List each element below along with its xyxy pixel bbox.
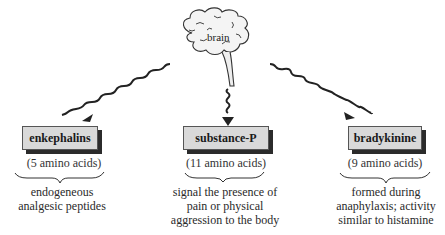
brace-bradykinine — [340, 172, 430, 183]
node-enkephalins: enkephalins — [22, 126, 98, 150]
description-line: signal the presence of — [160, 185, 290, 199]
amino-acid-count-substance-p: (11 amino acids) — [170, 156, 282, 171]
arrowheads — [82, 112, 355, 126]
arrow-to-substance-p — [227, 89, 230, 113]
braces — [15, 172, 430, 183]
arrow-to-bradykinine — [270, 64, 372, 113]
node-bradykinine: bradykinine — [348, 126, 422, 150]
arrowhead-substance-p-icon — [222, 117, 234, 126]
brace-enkephalins — [15, 172, 104, 183]
brain-label: brain — [207, 31, 230, 43]
description-line: aggression to the body — [160, 213, 290, 227]
description-line: anaphylaxis; activity — [328, 199, 444, 213]
description-line: endogeneous — [2, 185, 122, 199]
description-substance-p: signal the presence of pain or physical … — [160, 185, 290, 227]
amino-acid-count-enkephalins: (5 amino acids) — [10, 156, 118, 171]
brace-substance-p — [185, 172, 264, 182]
amino-acid-count-bradykinine: (9 amino acids) — [330, 156, 440, 171]
description-line: similar to histamine — [328, 213, 444, 227]
arrowhead-bradykinine-icon — [344, 112, 355, 120]
description-line: pain or physical — [160, 199, 290, 213]
description-line: analgesic peptides — [2, 199, 122, 213]
description-line: formed during — [328, 185, 444, 199]
arrowhead-enkephalins-icon — [82, 114, 93, 122]
description-enkephalins: endogeneous analgesic peptides — [2, 185, 122, 213]
brain-icon — [183, 8, 248, 86]
wavy-arrows — [62, 64, 372, 115]
arrow-to-enkephalins — [62, 64, 170, 115]
description-bradykinine: formed during anaphylaxis; activity simi… — [328, 185, 444, 227]
node-substance-p: substance-P — [183, 126, 269, 150]
